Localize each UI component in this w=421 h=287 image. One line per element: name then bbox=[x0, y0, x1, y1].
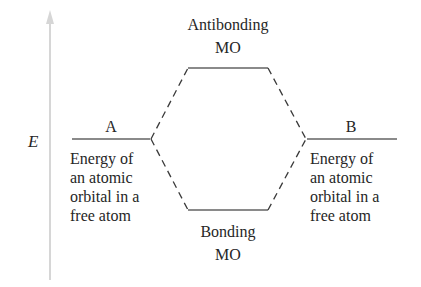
atom-a-description: Energy of an atomic orbital in a free at… bbox=[70, 149, 139, 225]
bonding-label: Bonding MO bbox=[168, 222, 288, 264]
antibonding-label: Antibonding MO bbox=[168, 15, 288, 57]
atom-a-label: A bbox=[96, 117, 126, 136]
dashed-connectors bbox=[151, 68, 306, 210]
atom-b-label: B bbox=[336, 117, 366, 136]
energy-axis-label: E bbox=[28, 132, 38, 151]
atom-b-description: Energy of an atomic orbital in a free at… bbox=[310, 149, 379, 225]
energy-axis-arrow bbox=[46, 10, 54, 280]
